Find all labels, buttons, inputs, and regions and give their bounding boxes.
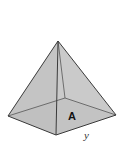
- pyramid-svg: A y: [0, 0, 123, 154]
- base-face-label: A: [68, 110, 76, 122]
- pyramid-diagram: A y: [0, 0, 123, 154]
- edge-length-label: y: [83, 129, 89, 141]
